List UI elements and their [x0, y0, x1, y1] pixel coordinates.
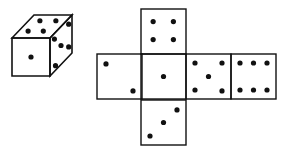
net-pip-top: [171, 19, 176, 24]
net-pip-right: [206, 74, 211, 79]
net-pip-bottom: [161, 120, 166, 125]
net-pip-left: [130, 88, 135, 93]
dice-diagram: [0, 0, 291, 151]
net-pip-top: [151, 19, 156, 24]
net-pip-far-right: [264, 87, 269, 92]
net-pip-top: [151, 37, 156, 42]
net-pip-far-right: [264, 60, 269, 65]
net-pip-right: [219, 88, 224, 93]
net-pip-bottom: [174, 107, 179, 112]
net-pip-far-right: [237, 87, 242, 92]
net-pip-right: [192, 60, 197, 65]
net-face-top: [141, 9, 186, 54]
net-pip-right: [219, 60, 224, 65]
net-pip-left: [103, 61, 108, 66]
net-pip-far-right: [237, 60, 242, 65]
net-pip-center: [161, 74, 166, 79]
dice-net: [0, 0, 291, 151]
net-pip-right: [192, 87, 197, 92]
net-pip-far-right: [251, 60, 256, 65]
net-pip-bottom: [147, 133, 152, 138]
net-face-left: [97, 54, 142, 99]
net-pip-far-right: [251, 87, 256, 92]
net-pip-top: [171, 37, 176, 42]
